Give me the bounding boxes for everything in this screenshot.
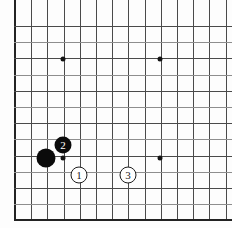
stone-white-1[interactable]: 1 bbox=[71, 167, 88, 184]
star-point bbox=[61, 156, 66, 161]
star-point bbox=[158, 156, 163, 161]
star-point bbox=[158, 57, 163, 62]
stone-black-2[interactable]: 2 bbox=[55, 137, 72, 154]
grid-line-horizontal bbox=[14, 91, 232, 92]
goban-grid: 213 bbox=[0, 0, 232, 228]
go-board-diagram: 213 bbox=[0, 0, 232, 228]
board-border-bottom bbox=[14, 219, 232, 221]
grid-line-horizontal bbox=[14, 75, 232, 76]
grid-line-horizontal bbox=[14, 58, 232, 59]
grid-line-horizontal bbox=[14, 123, 232, 124]
grid-line-horizontal bbox=[14, 42, 232, 43]
grid-line-horizontal bbox=[14, 26, 232, 27]
stone-move-number: 2 bbox=[60, 140, 66, 151]
grid-line-horizontal bbox=[14, 204, 232, 205]
star-point bbox=[61, 57, 66, 62]
stone-white-3[interactable]: 3 bbox=[120, 167, 137, 184]
grid-line-horizontal bbox=[14, 188, 232, 189]
grid-line-horizontal bbox=[14, 139, 232, 140]
stone-move-number: 3 bbox=[125, 170, 131, 181]
stone-move-number: 1 bbox=[76, 170, 82, 181]
grid-line-horizontal bbox=[14, 107, 232, 108]
stone-black[interactable] bbox=[37, 149, 56, 168]
